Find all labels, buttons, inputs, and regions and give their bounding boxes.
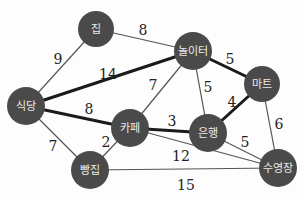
node-label: 식당 bbox=[16, 100, 36, 113]
edge-weight-label: 2 bbox=[102, 134, 111, 150]
node-label: 수영장 bbox=[263, 162, 293, 175]
edge-weight-label: 8 bbox=[85, 101, 94, 117]
edge-weight-label: 7 bbox=[49, 138, 58, 154]
edge-weight-label: 14 bbox=[99, 66, 117, 82]
nodes-layer: 집놀이터마트식당카페은행빵집수영장 bbox=[7, 11, 297, 189]
weighted-graph-diagram: 981457583465127215 집놀이터마트식당카페은행빵집수영장 bbox=[0, 0, 303, 201]
edge-weight-label: 5 bbox=[204, 79, 213, 95]
node-playground: 놀이터 bbox=[174, 32, 212, 70]
node-restaurant: 식당 bbox=[7, 87, 45, 125]
edge-weight-label: 9 bbox=[54, 51, 63, 67]
node-pool: 수영장 bbox=[259, 149, 297, 187]
graph-canvas: 981457583465127215 집놀이터마트식당카페은행빵집수영장 bbox=[0, 0, 303, 201]
node-mart: 마트 bbox=[244, 66, 280, 102]
edge-weight-label: 15 bbox=[177, 177, 195, 193]
edge-weight-label: 7 bbox=[149, 77, 158, 93]
edge-weight-label: 8 bbox=[139, 22, 148, 38]
node-bakery: 빵집 bbox=[71, 151, 109, 189]
edge-weight-label: 3 bbox=[168, 113, 177, 129]
node-cafe: 카페 bbox=[111, 109, 149, 147]
node-label: 카페 bbox=[120, 122, 140, 135]
edge-weight-label: 6 bbox=[275, 116, 284, 132]
edge-weight-label: 5 bbox=[241, 134, 250, 150]
node-label: 은행 bbox=[198, 127, 218, 140]
edge-weight-label: 12 bbox=[172, 148, 190, 164]
node-label: 집 bbox=[91, 23, 101, 36]
node-label: 빵집 bbox=[80, 164, 100, 177]
node-label: 놀이터 bbox=[178, 45, 208, 58]
node-bank: 은행 bbox=[189, 114, 227, 152]
edge-weight-label: 5 bbox=[226, 51, 235, 67]
node-label: 마트 bbox=[252, 78, 272, 91]
edge-bakery-pool bbox=[90, 168, 278, 170]
node-home: 집 bbox=[78, 11, 114, 47]
edge-weight-label: 4 bbox=[228, 94, 237, 110]
